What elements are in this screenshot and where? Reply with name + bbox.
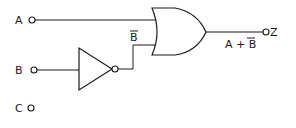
not-gate: B bbox=[79, 31, 156, 90]
output-z-label: Z bbox=[270, 26, 278, 39]
output-z-terminal bbox=[263, 29, 269, 35]
input-c: C bbox=[15, 102, 34, 115]
input-c-label: C bbox=[15, 102, 23, 115]
output-z: Z A + B bbox=[206, 26, 278, 51]
input-b-terminal bbox=[31, 67, 37, 73]
input-b: B bbox=[15, 64, 79, 77]
input-a: A bbox=[15, 14, 156, 27]
not-gate-bubble bbox=[112, 66, 118, 72]
or-gate bbox=[152, 8, 206, 55]
input-b-label: B bbox=[15, 64, 23, 77]
not-output-label: B bbox=[130, 31, 138, 44]
not-gate-triangle bbox=[79, 48, 112, 90]
input-a-label: A bbox=[15, 14, 23, 27]
or-gate-body bbox=[152, 8, 206, 55]
input-a-terminal bbox=[29, 17, 35, 23]
or-output-expression: A + B bbox=[225, 38, 256, 51]
logic-circuit-diagram: A B C B Z A + B bbox=[0, 0, 296, 128]
wire-not-to-or bbox=[118, 45, 156, 69]
or-expr-a: A + bbox=[225, 38, 249, 51]
or-expr-b: B bbox=[249, 38, 257, 51]
input-c-terminal bbox=[28, 105, 34, 111]
